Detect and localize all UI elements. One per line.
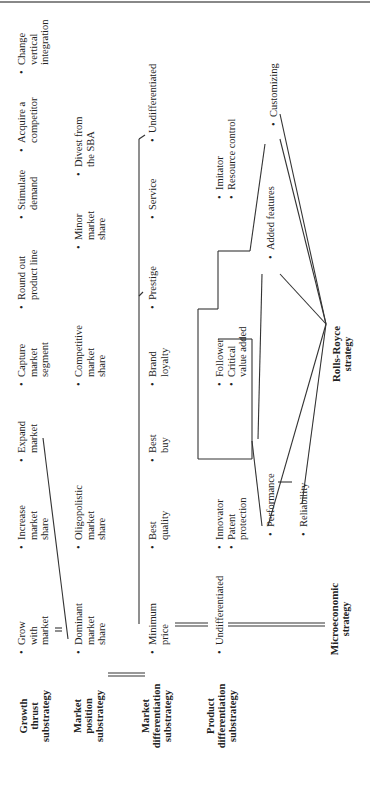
strategy-tree-diagram: Growththrustsubstrategy Marketpositionsu… (0, 0, 370, 794)
connector-lines (0, 0, 370, 794)
